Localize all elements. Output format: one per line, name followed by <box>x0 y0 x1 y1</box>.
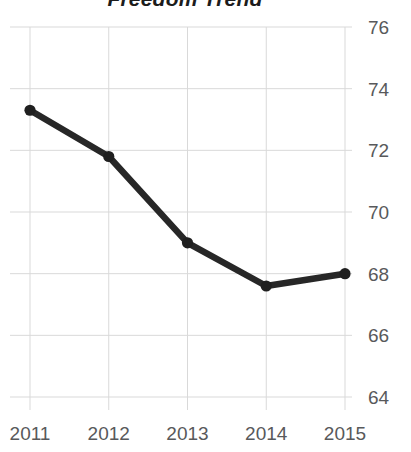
data-point-marker <box>261 280 272 291</box>
y-axis-tick-label: 72 <box>368 141 408 160</box>
x-axis-tick-label: 2011 <box>10 424 51 443</box>
line-chart-svg <box>0 0 411 452</box>
y-axis-tick-label: 64 <box>368 388 408 407</box>
x-axis-tick-label: 2014 <box>245 424 287 443</box>
data-point-marker <box>182 237 193 248</box>
y-axis-tick-label: 68 <box>368 264 408 283</box>
y-axis-tick-label: 66 <box>368 326 408 345</box>
x-axis-tick-label: 2015 <box>324 424 366 443</box>
y-axis-tick-label: 74 <box>368 79 408 98</box>
vertical-gridlines <box>30 27 345 410</box>
data-point-marker <box>339 268 350 279</box>
plot-area <box>0 0 411 452</box>
chart-container: Freedom Trend 76747270686664 20112012201… <box>0 0 411 452</box>
y-axis-tick-label: 76 <box>368 18 408 37</box>
horizontal-gridlines <box>10 27 352 397</box>
x-axis-tick-label: 2012 <box>88 424 130 443</box>
data-point-marker <box>103 151 114 162</box>
y-axis-tick-label: 70 <box>368 203 408 222</box>
x-axis-tick-label: 2013 <box>166 424 208 443</box>
data-point-marker <box>24 105 35 116</box>
